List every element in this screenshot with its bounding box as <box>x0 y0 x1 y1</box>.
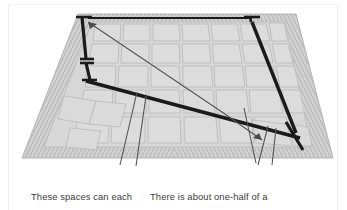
caption-right: There is about one-half of a square in t… <box>150 167 289 210</box>
caption-left-line-1: These spaces can each <box>31 191 132 203</box>
caption-right-line-1: There is about one-half of a <box>150 191 289 203</box>
figure-page: These spaces can each count as one squar… <box>0 0 347 210</box>
caption-left: These spaces can each count as one squar… <box>31 167 132 210</box>
